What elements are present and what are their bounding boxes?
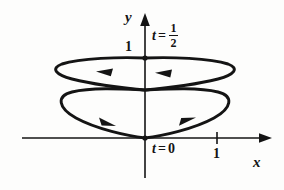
t-half-variable: t (152, 29, 156, 43)
t-half-equals-sign: = (158, 29, 166, 43)
direction-arrow-upper-left (96, 69, 113, 77)
fraction-denominator: 2 (169, 37, 177, 49)
direction-arrow-lower-left (99, 118, 116, 126)
t-zero-equals-sign: = (158, 142, 166, 156)
fraction-numerator: 1 (169, 22, 177, 34)
y-axis (140, 13, 150, 178)
t-zero-variable: t (152, 142, 156, 156)
one-half-fraction: 1 2 (169, 22, 178, 49)
figure-canvas (0, 0, 284, 190)
t-zero-value: 0 (168, 142, 175, 156)
origin-point (142, 135, 147, 140)
parametric-curve-figure: y x 1 1 t = 1 2 t = 0 (0, 0, 284, 190)
direction-arrow-lower-right (179, 118, 196, 126)
top-point (142, 55, 147, 60)
annotation-t-equals-zero: t = 0 (152, 142, 175, 156)
x-axis-label: x (253, 155, 261, 170)
y-axis-label: y (125, 10, 132, 25)
annotation-t-equals-one-half: t = 1 2 (152, 23, 178, 50)
direction-arrow-upper-right (155, 70, 172, 78)
x-axis-tick-label-1: 1 (213, 147, 220, 161)
y-axis-tick-label-1: 1 (125, 40, 132, 54)
